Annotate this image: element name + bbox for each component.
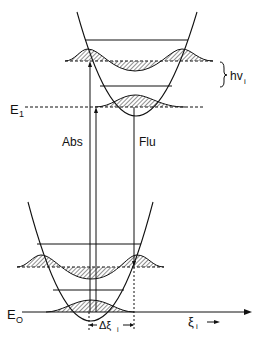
e0-label: E	[7, 307, 16, 322]
fluorescence-transition	[132, 107, 136, 267]
delta-xi-label: Δξ	[99, 319, 111, 331]
franck-condon-diagram: E 1 hv i Abs Flu Δξ i	[0, 0, 261, 343]
hv-label: hv	[230, 69, 243, 83]
xi-axis-subscript: i	[196, 322, 198, 331]
e0-subscript: O	[16, 315, 23, 325]
axis-arrow-icon	[244, 309, 252, 315]
e1-label: E	[10, 102, 19, 117]
xi-axis-label: ξ	[188, 314, 194, 329]
upper-potential-well	[65, 12, 213, 116]
hv-brace-icon	[220, 62, 227, 87]
hv-subscript: i	[244, 77, 246, 86]
delta-xi-subscript: i	[117, 326, 119, 333]
xi-direction-arrow-icon	[207, 320, 220, 324]
delta-arrows-icon	[89, 323, 134, 327]
e1-subscript: 1	[19, 109, 24, 119]
flu-label: Flu	[139, 135, 156, 149]
abs-label: Abs	[62, 135, 83, 149]
